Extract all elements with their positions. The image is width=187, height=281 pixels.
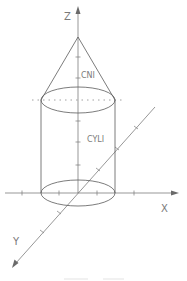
x-axis-label: X	[161, 203, 168, 214]
cylinder-label: CYLI	[87, 135, 104, 144]
y-axis-label: Y	[12, 236, 20, 247]
x-axis-arrow-icon	[171, 191, 179, 196]
diagram-canvas: Z CNI CYLI X Y	[0, 0, 187, 281]
z-axis-arrow-icon	[76, 6, 81, 14]
cone-label: CNI	[81, 71, 95, 80]
x-axis	[5, 191, 179, 196]
z-axis	[76, 6, 81, 193]
z-axis-label: Z	[64, 11, 71, 22]
y-axis	[12, 107, 155, 268]
